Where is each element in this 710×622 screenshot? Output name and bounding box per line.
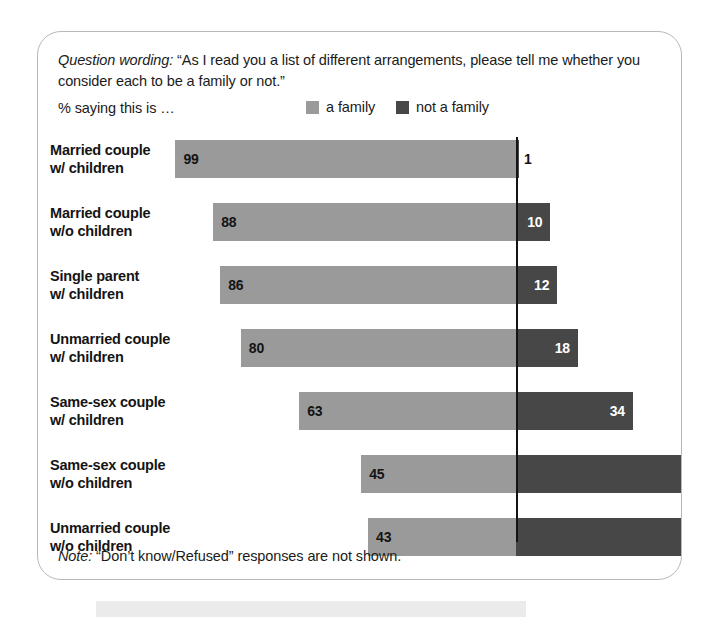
bar-not-a-family[interactable]: 34	[516, 392, 633, 430]
category-label-line1: Unmarried couple	[50, 330, 190, 348]
category-label-line2: w/ children	[50, 348, 190, 366]
category-label: Same-sex couplew/o children	[50, 456, 190, 492]
bar-a-family[interactable]: 45	[361, 455, 516, 493]
chart-plot-area: Married couplew/ children991Married coup…	[38, 32, 681, 579]
zero-reference-line	[516, 137, 518, 542]
category-label-line1: Married couple	[50, 141, 190, 159]
bar-a-family[interactable]: 99	[175, 140, 516, 178]
note-text: “Don’t know/Refused” responses are not s…	[96, 548, 401, 564]
bar-value-a-family: 86	[228, 277, 243, 293]
category-label: Married couplew/o children	[50, 204, 190, 240]
bar-a-family[interactable]: 63	[299, 392, 516, 430]
bar-value-not-a-family: 10	[527, 214, 542, 230]
bar-not-a-family[interactable]: 10	[516, 203, 550, 241]
category-label-line1: Same-sex couple	[50, 456, 190, 474]
chart-panel: Question wording: “As I read you a list …	[37, 31, 682, 580]
category-label: Same-sex couplew/ children	[50, 393, 190, 429]
category-label: Married couplew/ children	[50, 141, 190, 177]
bar-a-family[interactable]: 86	[220, 266, 516, 304]
category-label-line2: w/o children	[50, 222, 190, 240]
bar-row: Married couplew/ children991	[38, 140, 682, 178]
bar-not-a-family[interactable]	[516, 455, 682, 493]
category-label-line2: w/ children	[50, 411, 190, 429]
bar-value-a-family: 43	[376, 529, 391, 545]
category-label-line1: Same-sex couple	[50, 393, 190, 411]
note-label: Note:	[58, 548, 92, 564]
bar-not-a-family[interactable]: 12	[516, 266, 557, 304]
bar-value-not-a-family: 1	[524, 151, 532, 167]
bar-a-family[interactable]: 80	[241, 329, 516, 367]
bar-row: Married couplew/o children8810	[38, 203, 682, 241]
scan-artifact-strip	[96, 601, 526, 617]
bar-row: Same-sex couplew/ children6334	[38, 392, 682, 430]
bar-value-not-a-family: 18	[555, 340, 570, 356]
bar-value-a-family: 45	[369, 466, 384, 482]
bar-value-a-family: 63	[307, 403, 322, 419]
bar-value-a-family: 80	[249, 340, 264, 356]
category-label-line2: w/o children	[50, 474, 190, 492]
bar-row: Unmarried couplew/ children8018	[38, 329, 682, 367]
bar-value-not-a-family: 34	[610, 403, 625, 419]
chart-note: Note: “Don’t know/Refused” responses are…	[58, 548, 401, 564]
category-label: Unmarried couplew/ children	[50, 330, 190, 366]
bar-row: Single parentw/ children8612	[38, 266, 682, 304]
category-label: Single parentw/ children	[50, 267, 190, 303]
bar-row: Same-sex couplew/o children45	[38, 455, 682, 493]
bar-a-family[interactable]: 88	[213, 203, 516, 241]
category-label-line2: w/ children	[50, 285, 190, 303]
category-label-line1: Married couple	[50, 204, 190, 222]
category-label-line2: w/ children	[50, 159, 190, 177]
bar-not-a-family[interactable]	[516, 518, 682, 556]
category-label-line1: Unmarried couple	[50, 519, 190, 537]
bar-value-a-family: 99	[183, 151, 198, 167]
category-label-line1: Single parent	[50, 267, 190, 285]
bar-value-not-a-family: 12	[534, 277, 549, 293]
bar-value-a-family: 88	[221, 214, 236, 230]
bar-not-a-family[interactable]: 18	[516, 329, 578, 367]
